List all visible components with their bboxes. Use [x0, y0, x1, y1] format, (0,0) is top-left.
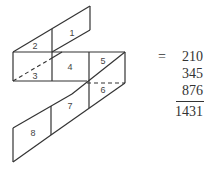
cell-label-5: 5: [100, 56, 105, 66]
cell-label-4: 4: [67, 62, 72, 72]
sum-total: 1431: [163, 104, 203, 120]
addend-2: 345: [163, 66, 203, 82]
cell5-diagonal: [72, 52, 125, 94]
lower-slant-top: [13, 94, 72, 128]
cell-label-6: 6: [100, 85, 105, 95]
cell-label-8: 8: [30, 128, 35, 138]
cell-label-2: 2: [32, 41, 37, 51]
cell-label-1: 1: [69, 28, 74, 38]
sum-rule: [176, 101, 204, 102]
cell3-diagonal-end: [52, 52, 62, 58]
addend-3: 876: [163, 83, 203, 99]
lower-slant-bottom-left: [13, 135, 51, 162]
lower-slant-bottom-right: [51, 83, 125, 135]
cell-label-3: 3: [32, 71, 37, 81]
cell-label-7: 7: [67, 101, 72, 111]
addend-1: 210: [163, 49, 203, 65]
